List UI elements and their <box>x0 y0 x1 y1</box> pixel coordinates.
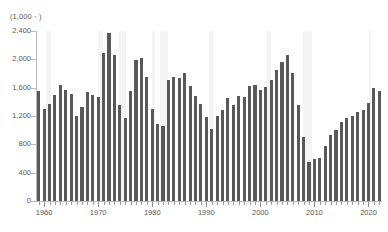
housing-starts-chart: (1,000ㆍ) 04008001,2001,6002,0002,400 196… <box>0 0 388 232</box>
y-tick-mark <box>31 88 36 89</box>
x-minor-tick <box>217 202 218 205</box>
x-minor-tick <box>352 202 353 205</box>
x-minor-tick <box>228 202 229 205</box>
x-minor-tick <box>336 202 337 205</box>
bar <box>324 146 327 201</box>
x-minor-tick <box>39 202 40 205</box>
x-minor-tick <box>271 202 272 205</box>
bar <box>356 112 359 201</box>
x-minor-tick <box>244 202 245 205</box>
y-tick-label: 2,000 <box>3 56 31 64</box>
bar <box>243 97 246 201</box>
x-tick-label: 2000 <box>252 209 269 217</box>
bar <box>318 158 321 201</box>
x-tick-label: 2010 <box>306 209 323 217</box>
bar-series <box>36 31 382 201</box>
bar <box>248 86 251 201</box>
bar <box>270 80 273 201</box>
bar <box>216 116 219 201</box>
x-minor-tick <box>158 202 159 205</box>
bar <box>205 117 208 202</box>
bar <box>37 91 40 201</box>
bar <box>107 33 110 202</box>
bar <box>113 55 116 201</box>
x-minor-tick <box>114 202 115 205</box>
y-tick-mark <box>31 116 36 117</box>
bar <box>183 73 186 201</box>
x-minor-tick <box>174 202 175 205</box>
x-minor-tick <box>266 202 267 205</box>
x-major-tick <box>206 202 207 207</box>
x-minor-tick <box>201 202 202 205</box>
bar <box>362 110 365 201</box>
bar <box>59 85 62 201</box>
x-major-tick <box>98 202 99 207</box>
x-minor-tick <box>147 202 148 205</box>
x-minor-tick <box>347 202 348 205</box>
x-tick-label: 1960 <box>36 209 53 217</box>
x-minor-tick <box>87 202 88 205</box>
x-minor-tick <box>120 202 121 205</box>
x-major-tick <box>314 202 315 207</box>
x-minor-tick <box>255 202 256 205</box>
x-minor-tick <box>233 202 234 205</box>
x-minor-tick <box>185 202 186 205</box>
x-minor-tick <box>374 202 375 205</box>
x-minor-tick <box>66 202 67 205</box>
bar <box>53 95 56 201</box>
x-minor-tick <box>55 202 56 205</box>
x-minor-tick <box>60 202 61 205</box>
bar <box>291 73 294 201</box>
bar <box>286 55 289 201</box>
y-axis-line <box>36 31 37 201</box>
x-minor-tick <box>179 202 180 205</box>
y-tick-label: 800 <box>3 141 31 149</box>
bar <box>118 105 121 201</box>
bar <box>70 94 73 201</box>
bar <box>102 53 105 201</box>
bar <box>80 107 83 201</box>
y-tick-label: 2,400 <box>3 27 31 35</box>
bar <box>140 58 143 201</box>
x-minor-tick <box>195 202 196 205</box>
x-minor-tick <box>304 202 305 205</box>
bar <box>237 96 240 201</box>
bar <box>161 126 164 201</box>
bar <box>199 104 202 201</box>
x-minor-tick <box>136 202 137 205</box>
x-minor-tick <box>282 202 283 205</box>
x-tick-label: 2020 <box>360 209 377 217</box>
x-minor-tick <box>77 202 78 205</box>
y-tick-label: 1,600 <box>3 84 31 92</box>
y-axis-tick-labels: 04008001,2001,6002,0002,400 <box>0 0 31 232</box>
x-minor-tick <box>109 202 110 205</box>
bar <box>351 116 354 201</box>
bar <box>156 124 159 201</box>
x-minor-tick <box>293 202 294 205</box>
x-minor-tick <box>71 202 72 205</box>
x-minor-tick <box>341 202 342 205</box>
y-tick-mark <box>31 144 36 145</box>
x-major-tick <box>368 202 369 207</box>
bar <box>178 78 181 201</box>
bar <box>340 122 343 201</box>
bar <box>86 92 89 201</box>
x-minor-tick <box>168 202 169 205</box>
x-minor-tick <box>363 202 364 205</box>
y-tick-mark <box>31 31 36 32</box>
bar <box>194 96 197 201</box>
x-major-tick <box>152 202 153 207</box>
bar <box>367 103 370 201</box>
bar <box>253 85 256 201</box>
bar <box>302 137 305 201</box>
bar <box>210 129 213 201</box>
x-major-tick <box>260 202 261 207</box>
bar <box>151 109 154 201</box>
bar <box>221 110 224 201</box>
bar <box>48 104 51 201</box>
x-tick-label: 1990 <box>198 209 215 217</box>
x-minor-tick <box>277 202 278 205</box>
x-tick-label: 1970 <box>90 209 107 217</box>
y-tick-mark <box>31 201 36 202</box>
x-minor-tick <box>379 202 380 205</box>
